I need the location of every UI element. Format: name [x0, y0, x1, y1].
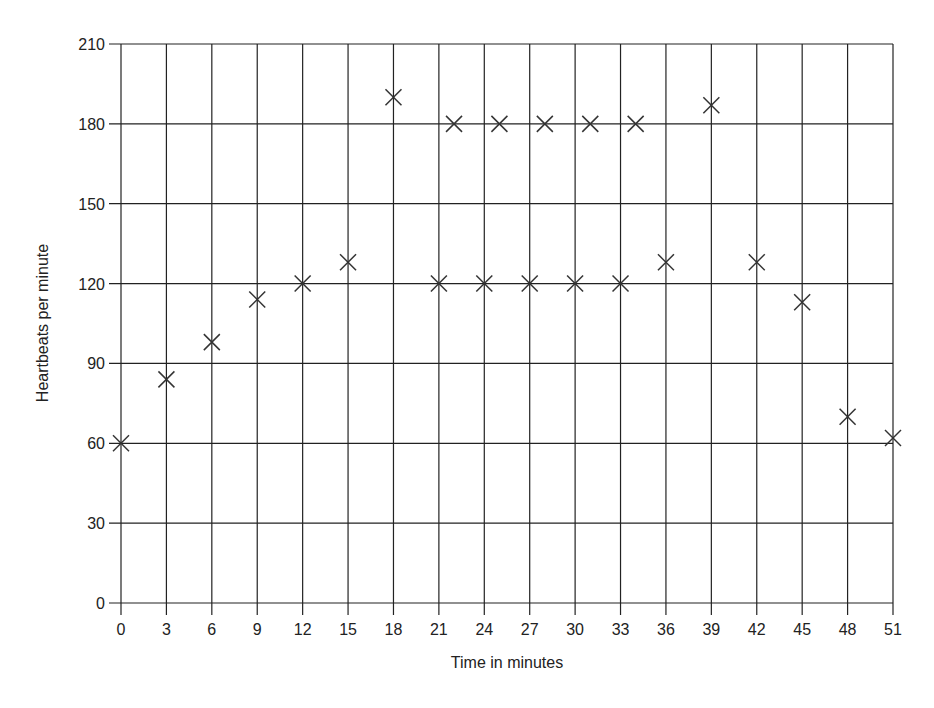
x-tick-label: 18	[385, 621, 403, 638]
y-axis-title: Heartbeats per minute	[34, 244, 51, 402]
x-tick-label: 36	[657, 621, 675, 638]
x-tick-label: 24	[475, 621, 493, 638]
y-tick-label: 210	[78, 36, 105, 53]
x-tick-label: 9	[253, 621, 262, 638]
x-axis-ticks: 03691215182124273033363942454851	[117, 621, 902, 638]
heart-rate-chart: 0306090120150180210 03691215182124273033…	[0, 0, 934, 708]
x-tick-label: 30	[566, 621, 584, 638]
x-tick-label: 15	[339, 621, 357, 638]
y-tick-label: 30	[87, 515, 105, 532]
x-tick-label: 21	[430, 621, 448, 638]
y-tick-label: 120	[78, 276, 105, 293]
x-tick-label: 3	[162, 621, 171, 638]
y-tick-label: 0	[96, 595, 105, 612]
y-tick-label: 150	[78, 196, 105, 213]
x-tick-label: 51	[884, 621, 902, 638]
x-tick-label: 27	[521, 621, 539, 638]
x-tick-label: 33	[612, 621, 630, 638]
x-tick-label: 45	[793, 621, 811, 638]
grid-lines	[109, 44, 893, 615]
data-markers	[113, 89, 901, 451]
y-axis-ticks: 0306090120150180210	[78, 36, 105, 612]
y-tick-label: 180	[78, 116, 105, 133]
x-tick-label: 39	[702, 621, 720, 638]
x-tick-label: 6	[207, 621, 216, 638]
x-tick-label: 0	[117, 621, 126, 638]
y-tick-label: 90	[87, 355, 105, 372]
x-tick-label: 12	[294, 621, 312, 638]
x-tick-label: 48	[839, 621, 857, 638]
x-axis-title: Time in minutes	[451, 654, 563, 671]
y-tick-label: 60	[87, 435, 105, 452]
x-tick-label: 42	[748, 621, 766, 638]
